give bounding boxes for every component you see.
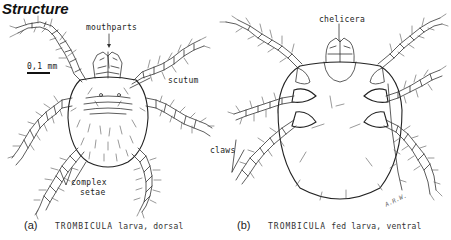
caption-a-description: larva, dorsal: [118, 222, 183, 231]
label-scale-bar: 0,1 mm: [27, 62, 58, 71]
caption-a-letter: (a): [24, 219, 37, 231]
caption-b-text: TROMBICULA fed larva, ventral: [268, 222, 422, 231]
caption-a-genus: TROMBICULA: [55, 222, 113, 231]
label-mouthparts: mouthparts: [86, 23, 137, 32]
figure-b-fed-larva-ventral: [220, 14, 448, 200]
caption-b-description: fed larva, ventral: [331, 222, 421, 231]
caption-b-genus: TROMBICULA: [268, 222, 326, 231]
label-claws: claws: [210, 146, 236, 155]
label-scutum: scutum: [168, 76, 199, 85]
label-complex: complex: [71, 178, 107, 187]
mite-illustrations: [0, 0, 451, 240]
label-chelicera: chelicera: [319, 15, 365, 24]
label-setae: setae: [80, 188, 106, 197]
caption-a-text: TROMBICULA larva, dorsal: [55, 222, 183, 231]
figure-a-larva-dorsal: [8, 16, 214, 219]
caption-b-letter: (b): [237, 219, 250, 231]
